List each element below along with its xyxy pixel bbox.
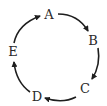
node-e: E [8,44,18,59]
cycle-diagram: A B C D E [0,0,107,106]
edge-e-to-a [14,16,40,43]
node-c: C [80,81,90,96]
node-a: A [43,7,54,22]
edge-b-to-c [92,48,99,79]
edge-a-to-b [58,14,88,31]
node-b: B [88,33,98,48]
edge-c-to-d [45,97,76,101]
node-d: D [32,89,42,104]
edge-d-to-e [14,62,30,92]
